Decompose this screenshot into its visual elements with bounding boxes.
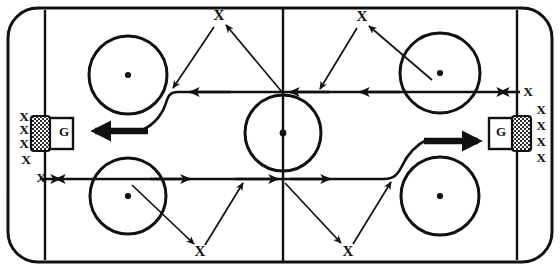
left-goal-net bbox=[31, 116, 50, 151]
faceoff-dot-bottom-right bbox=[437, 193, 443, 199]
rink-canvas: G G X X X X X X X X X X X X X X bbox=[0, 0, 560, 270]
player-mark-target-bottom-right: X bbox=[343, 243, 354, 259]
faceoff-dot-center bbox=[280, 130, 287, 137]
player-mark-left-queue-5: X bbox=[36, 170, 46, 185]
hockey-drill-diagram: G G X X X X X X X X X X X X X X bbox=[0, 0, 560, 270]
player-mark-left-queue-3: X bbox=[19, 136, 29, 151]
right-goalie-label: G bbox=[496, 124, 506, 139]
player-mark-target-top-left: X bbox=[214, 7, 225, 23]
player-mark-target-bottom-left: X bbox=[195, 243, 206, 259]
player-mark-right-queue-1: X bbox=[523, 84, 533, 99]
faceoff-dot-bottom-left bbox=[125, 193, 131, 199]
player-mark-right-queue-3: X bbox=[536, 118, 546, 133]
player-mark-left-queue-4: X bbox=[21, 152, 31, 167]
player-mark-right-queue-2: X bbox=[536, 102, 546, 117]
player-mark-right-queue-4: X bbox=[536, 134, 546, 149]
faceoff-dot-top-left bbox=[125, 72, 131, 78]
left-goalie-label: G bbox=[59, 124, 69, 139]
player-mark-right-queue-5: X bbox=[536, 150, 546, 165]
player-mark-left-queue-2: X bbox=[19, 122, 29, 137]
player-mark-target-top-right: X bbox=[357, 8, 368, 24]
faceoff-dot-top-right bbox=[437, 70, 443, 76]
right-goal-net bbox=[512, 116, 531, 151]
